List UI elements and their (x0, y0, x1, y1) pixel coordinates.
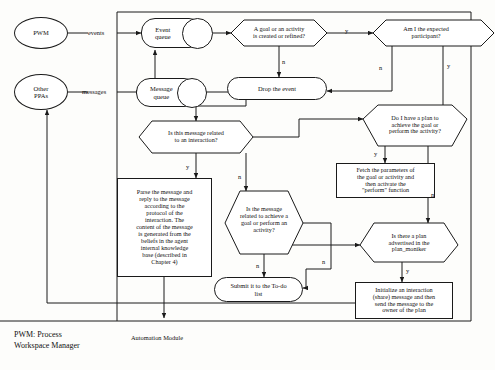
process-initialize-interaction-label: Initialize an interaction (share) messag… (373, 287, 435, 315)
process-drop-event: Drop the event (227, 77, 327, 100)
actor-pwm-label: PWM (33, 29, 49, 36)
message-queue-label: Message queue (150, 85, 173, 100)
process-submit-todo: Submit it to the To-do list (214, 277, 303, 302)
event-queue-marker (182, 18, 213, 49)
message-queue-marker (177, 78, 207, 108)
actor-other-ppas-label: Other PPAs (34, 85, 49, 100)
edge-label-haveplan-no: n (431, 191, 434, 198)
edge-label-msggoal-right-no: n (322, 258, 325, 265)
edge-label-goal-no: n (282, 58, 285, 65)
edge-label-msggoal-no: n (256, 262, 259, 269)
flowchart-canvas: PWM Other PPAs Event queue Message queue… (0, 0, 495, 370)
process-submit-todo-label: Submit it to the To-do list (230, 282, 286, 296)
shape-goal-decision (231, 20, 327, 46)
edge-label-interaction-yes: y (186, 163, 189, 170)
process-fetch-parameters: Fetch the parameters of the goal or acti… (336, 163, 435, 198)
process-fetch-parameters-label: Fetch the parameters of the goal or acti… (356, 167, 414, 195)
shape-msggoal-decision (225, 191, 303, 254)
actor-other-ppas: Other PPAs (14, 74, 68, 110)
process-parse-message-label: Parse the message and reply to the messa… (136, 189, 193, 265)
edge-label-interaction-no: n (238, 173, 241, 180)
automation-module-caption: Automation Module (131, 334, 183, 341)
edge-label-participant-yes: y (447, 62, 450, 69)
process-initialize-interaction: Initialize an interaction (share) messag… (355, 282, 453, 319)
edge-label-haveplan-yes: y (374, 150, 377, 157)
edge-label-goal-yes: y (345, 27, 348, 34)
actor-pwm: PWM (14, 17, 68, 49)
shape-msg-interaction-decision (139, 121, 253, 153)
legend-pwm-caption: PWM: Process Workspace Manager (14, 330, 80, 352)
edge-label-participant-no: n (379, 64, 382, 71)
shape-participant-decision (373, 20, 494, 46)
event-queue-label: Event queue (155, 26, 171, 41)
process-parse-message: Parse the message and reply to the messa… (117, 178, 212, 277)
edge-label-planadv-yes: y (406, 267, 409, 274)
edge-label-messages: messages (82, 88, 106, 95)
shape-haveplan-decision (363, 105, 467, 146)
shape-planadv-decision (360, 223, 458, 262)
edge-label-events: events (88, 29, 104, 36)
process-drop-event-label: Drop the event (258, 85, 296, 92)
